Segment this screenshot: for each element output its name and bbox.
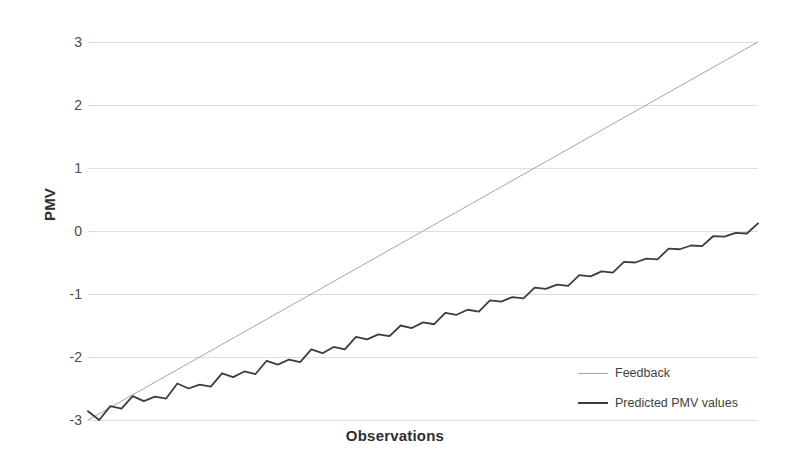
- y-axis-title: PMV: [41, 170, 58, 240]
- y-tick-label-3: 3: [56, 35, 82, 49]
- legend-item-predicted: Predicted PMV values: [578, 388, 778, 418]
- y-tick-label-0: 0: [56, 224, 82, 238]
- y-tick-label-neg2: -2: [56, 350, 82, 364]
- legend-item-feedback: Feedback: [578, 358, 778, 388]
- x-axis-title: Observations: [0, 427, 790, 444]
- y-tick-label-neg3: -3: [56, 413, 82, 427]
- legend-label-feedback: Feedback: [615, 366, 670, 380]
- chart-legend: Feedback Predicted PMV values: [578, 358, 778, 418]
- legend-swatch-predicted-icon: [578, 402, 608, 404]
- pmv-line-chart: PMV 3 2 1 0 -1 -2 -3 Feedback Predicted …: [0, 0, 790, 469]
- legend-label-predicted: Predicted PMV values: [615, 396, 738, 410]
- legend-swatch-feedback-icon: [578, 373, 608, 374]
- y-tick-label-2: 2: [56, 98, 82, 112]
- y-tick-label-1: 1: [56, 161, 82, 175]
- y-tick-label-neg1: -1: [56, 287, 82, 301]
